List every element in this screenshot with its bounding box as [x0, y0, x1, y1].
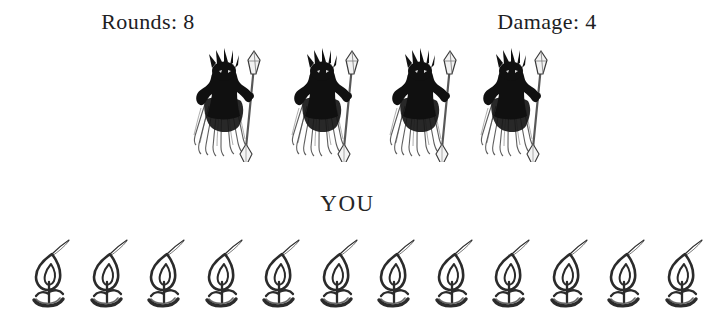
- horned-demon-with-staff-icon: [183, 44, 269, 162]
- flame-icon: [315, 238, 361, 310]
- enemy-demon[interactable]: [470, 44, 556, 162]
- horned-demon-with-staff-icon: [281, 44, 367, 162]
- life-flame[interactable]: [487, 238, 533, 310]
- life-flame[interactable]: [372, 238, 418, 310]
- life-flame[interactable]: [257, 238, 303, 310]
- flame-icon: [372, 238, 418, 310]
- life-flame[interactable]: [602, 238, 648, 310]
- life-flame[interactable]: [430, 238, 476, 310]
- life-flame[interactable]: [200, 238, 246, 310]
- enemy-demon[interactable]: [281, 44, 367, 162]
- life-flame-row: [0, 238, 695, 314]
- life-flame[interactable]: [27, 238, 73, 310]
- life-flame[interactable]: [142, 238, 188, 310]
- player-label: YOU: [0, 191, 695, 217]
- life-flame[interactable]: [660, 238, 706, 310]
- flame-icon: [430, 238, 476, 310]
- flame-icon: [545, 238, 591, 310]
- horned-demon-with-staff-icon: [379, 44, 465, 162]
- rounds-counter: Rounds: 8: [0, 9, 296, 35]
- enemy-row: [0, 44, 695, 164]
- enemy-demon[interactable]: [379, 44, 465, 162]
- damage-counter: Damage: 4: [399, 9, 695, 35]
- flame-icon: [142, 238, 188, 310]
- rounds-text: Rounds: 8: [101, 9, 194, 34]
- flame-icon: [27, 238, 73, 310]
- flame-icon: [200, 238, 246, 310]
- horned-demon-with-staff-icon: [470, 44, 556, 162]
- enemy-demon[interactable]: [183, 44, 269, 162]
- flame-icon: [85, 238, 131, 310]
- flame-icon: [257, 238, 303, 310]
- life-flame[interactable]: [85, 238, 131, 310]
- life-flame[interactable]: [315, 238, 361, 310]
- life-flame[interactable]: [545, 238, 591, 310]
- flame-icon: [660, 238, 706, 310]
- flame-icon: [487, 238, 533, 310]
- flame-icon: [602, 238, 648, 310]
- damage-text: Damage: 4: [497, 9, 597, 34]
- player-label-text: YOU: [320, 191, 375, 216]
